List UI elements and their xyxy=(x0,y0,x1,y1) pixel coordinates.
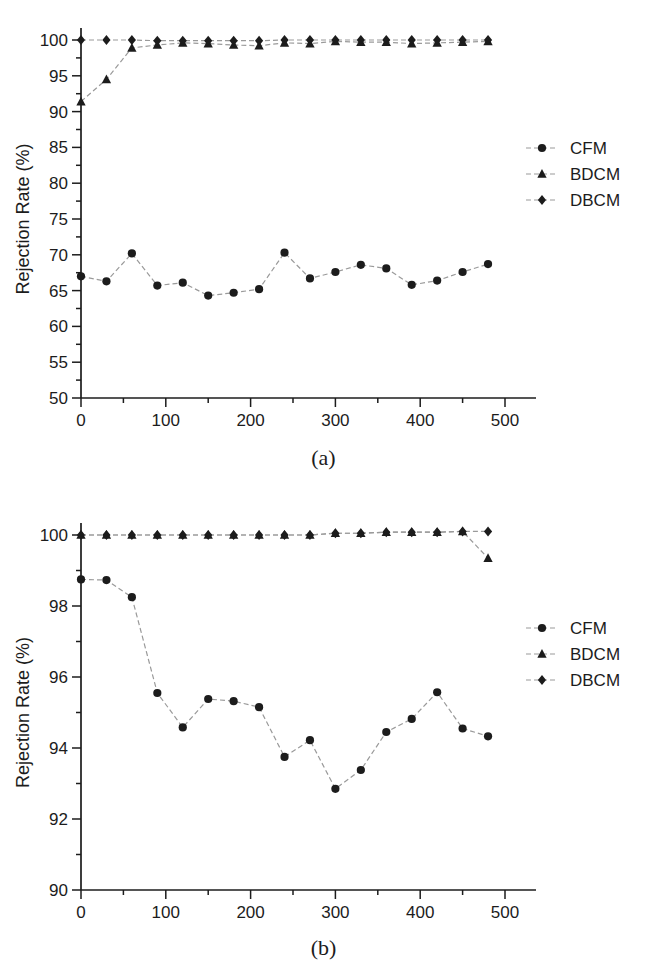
y-tick-label: 94 xyxy=(49,739,68,758)
x-tick-label: 200 xyxy=(236,903,264,922)
axes-group: 505560657075808590951000100200300400500T… xyxy=(13,28,536,445)
data-point-cfm xyxy=(230,697,238,705)
y-tick-label: 75 xyxy=(49,210,68,229)
data-point-dbcm xyxy=(230,36,238,46)
legend-label-cfm: CFM xyxy=(570,619,607,638)
y-tick-label: 100 xyxy=(40,526,68,545)
data-point-cfm xyxy=(128,249,136,257)
x-tick-label: 500 xyxy=(491,411,519,430)
legend-marker-cfm xyxy=(538,144,546,152)
y-tick-label: 50 xyxy=(49,389,68,408)
data-point-cfm xyxy=(77,575,85,583)
axes-group: 90929496981000100200300400500Time (min)R… xyxy=(13,523,536,935)
data-point-cfm xyxy=(433,688,441,696)
y-tick-label: 65 xyxy=(49,282,68,301)
y-axis-title: Rejection Rate (%) xyxy=(13,143,33,294)
y-tick-label: 60 xyxy=(49,317,68,336)
data-point-cfm xyxy=(408,715,416,723)
chart-a-canvas: 505560657075808590951000100200300400500T… xyxy=(0,0,647,445)
data-point-dbcm xyxy=(153,36,161,46)
panel-b-caption: (b) xyxy=(0,935,647,961)
y-axis-title: Rejection Rate (%) xyxy=(13,637,33,788)
x-tick-label: 300 xyxy=(321,411,349,430)
y-tick-label: 92 xyxy=(49,810,68,829)
data-point-cfm xyxy=(204,695,212,703)
data-point-cfm xyxy=(102,576,110,584)
data-point-cfm xyxy=(153,689,161,697)
data-point-dbcm xyxy=(128,35,136,45)
legend: CFMBDCMDBCM xyxy=(526,139,620,210)
data-point-cfm xyxy=(280,249,288,257)
data-point-cfm xyxy=(204,292,212,300)
data-point-dbcm xyxy=(408,35,416,45)
legend-label-bdcm: BDCM xyxy=(570,645,620,664)
x-tick-label: 100 xyxy=(152,411,180,430)
data-point-cfm xyxy=(77,272,85,280)
y-tick-label: 98 xyxy=(49,597,68,616)
chart-panel-b: 90929496981000100200300400500Time (min)R… xyxy=(0,500,647,980)
x-tick-label: 400 xyxy=(406,903,434,922)
data-point-bdcm xyxy=(102,74,111,83)
data-point-dbcm xyxy=(255,36,263,46)
x-tick-label: 200 xyxy=(236,411,264,430)
y-tick-label: 90 xyxy=(49,881,68,900)
legend: CFMBDCMDBCM xyxy=(526,619,620,690)
x-tick-label: 400 xyxy=(406,411,434,430)
series-dbcm xyxy=(77,35,492,46)
data-point-cfm xyxy=(382,728,390,736)
data-point-cfm xyxy=(306,736,314,744)
data-point-cfm xyxy=(484,732,492,740)
data-point-cfm xyxy=(128,593,136,601)
data-point-cfm xyxy=(153,281,161,289)
y-tick-label: 70 xyxy=(49,246,68,265)
data-point-cfm xyxy=(433,276,441,284)
series-line-cfm xyxy=(81,253,488,296)
data-point-cfm xyxy=(459,268,467,276)
data-point-cfm xyxy=(382,264,390,272)
legend-label-bdcm: BDCM xyxy=(570,165,620,184)
y-tick-label: 80 xyxy=(49,174,68,193)
y-tick-label: 55 xyxy=(49,353,68,372)
legend-marker-dbcm xyxy=(538,675,546,685)
y-tick-label: 90 xyxy=(49,103,68,122)
panel-a-caption: (a) xyxy=(0,445,647,471)
chart-b-canvas: 90929496981000100200300400500Time (min)R… xyxy=(0,500,647,935)
series-bdcm xyxy=(76,37,492,106)
x-tick-label: 500 xyxy=(491,903,519,922)
y-tick-label: 85 xyxy=(49,138,68,157)
data-point-cfm xyxy=(357,766,365,774)
y-tick-label: 100 xyxy=(40,31,68,50)
data-point-bdcm xyxy=(483,553,492,562)
legend-label-cfm: CFM xyxy=(570,139,607,158)
data-point-cfm xyxy=(331,785,339,793)
x-tick-label: 100 xyxy=(152,903,180,922)
y-tick-label: 95 xyxy=(49,67,68,86)
data-point-dbcm xyxy=(484,526,492,536)
legend-label-dbcm: DBCM xyxy=(570,191,620,210)
data-point-cfm xyxy=(255,285,263,293)
series-dbcm xyxy=(77,526,492,540)
series-cfm xyxy=(77,575,492,793)
data-point-cfm xyxy=(408,281,416,289)
data-point-dbcm xyxy=(77,35,85,45)
legend-label-dbcm: DBCM xyxy=(570,671,620,690)
data-point-cfm xyxy=(306,274,314,282)
data-point-cfm xyxy=(230,289,238,297)
data-point-cfm xyxy=(255,703,263,711)
data-point-cfm xyxy=(331,268,339,276)
data-point-cfm xyxy=(357,261,365,269)
data-point-cfm xyxy=(459,724,467,732)
x-tick-label: 300 xyxy=(321,903,349,922)
chart-panel-a: 505560657075808590951000100200300400500T… xyxy=(0,0,647,490)
data-point-cfm xyxy=(102,277,110,285)
series-cfm xyxy=(77,249,492,300)
data-point-cfm xyxy=(484,260,492,268)
data-point-cfm xyxy=(179,723,187,731)
y-tick-label: 96 xyxy=(49,668,68,687)
data-point-dbcm xyxy=(102,35,110,45)
legend-marker-cfm xyxy=(538,624,546,632)
data-point-cfm xyxy=(179,279,187,287)
x-tick-label: 0 xyxy=(76,411,85,430)
data-point-cfm xyxy=(280,753,288,761)
x-tick-label: 0 xyxy=(76,903,85,922)
